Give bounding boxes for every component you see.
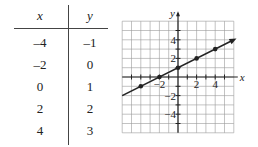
y-axis-arrow-icon <box>176 11 180 16</box>
tick-labels: xy−22442−2−4 <box>154 7 245 120</box>
data-point <box>194 56 199 61</box>
x-axis-label: x <box>239 71 245 83</box>
y-tick-label: −2 <box>164 90 176 102</box>
line-graph: xy−22442−2−4 <box>0 0 258 147</box>
y-tick-label: 2 <box>171 52 177 64</box>
y-axis-label: y <box>169 7 175 19</box>
y-tick-label: −4 <box>164 108 176 120</box>
data-point <box>176 65 181 70</box>
data-point <box>213 47 218 52</box>
data-point <box>157 75 162 80</box>
data-point <box>139 84 144 89</box>
x-tick-label: 2 <box>194 78 200 90</box>
x-tick-label: 4 <box>212 78 218 90</box>
y-tick-label: 4 <box>171 34 177 46</box>
axes <box>122 11 238 133</box>
data-line <box>122 38 236 95</box>
